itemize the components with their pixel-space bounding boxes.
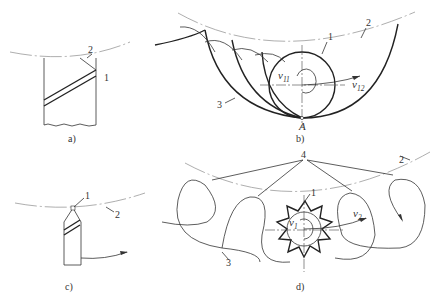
label-4: 4 bbox=[301, 149, 306, 160]
workpiece-surface-arc bbox=[15, 193, 145, 207]
motion-arrow bbox=[81, 252, 127, 258]
caption-c: c) bbox=[65, 281, 73, 293]
label-1: 1 bbox=[85, 190, 90, 201]
label-v1: v1 bbox=[289, 216, 298, 231]
tool-body bbox=[64, 208, 81, 265]
caption-d: d) bbox=[296, 281, 304, 293]
label-point-a: A bbox=[298, 120, 306, 132]
cutting-diagram: 2 1 a) 1 2 3 v11 v12 A b) bbox=[0, 0, 435, 299]
label-v2: v2 bbox=[353, 207, 362, 222]
trochoid-loop-2 bbox=[222, 197, 290, 262]
loop-arrowhead bbox=[398, 214, 403, 222]
trochoid-right bbox=[302, 24, 398, 118]
cutting-edge-line-2 bbox=[44, 76, 96, 106]
edge-line-1 bbox=[64, 220, 80, 230]
panel-b: 1 2 3 v11 v12 A b) bbox=[155, 12, 415, 145]
leader-line-1 bbox=[80, 58, 96, 70]
leader-2 bbox=[361, 28, 366, 38]
label-2: 2 bbox=[88, 44, 93, 55]
panel-c: 1 2 c) bbox=[15, 190, 145, 293]
leader-2 bbox=[106, 207, 114, 212]
caption-b: b) bbox=[296, 133, 304, 145]
label-3: 3 bbox=[226, 257, 231, 268]
workpiece-surface-arc bbox=[178, 12, 415, 41]
label-1: 1 bbox=[328, 31, 333, 42]
label-v12: v12 bbox=[352, 78, 365, 93]
rotation-arrow bbox=[297, 69, 316, 93]
leader-1 bbox=[322, 42, 327, 54]
cutting-edge-line-1 bbox=[44, 70, 96, 100]
label-2: 2 bbox=[115, 209, 120, 220]
leader-1 bbox=[305, 194, 310, 201]
motion-arrowhead bbox=[120, 251, 128, 255]
edge-line-2 bbox=[64, 225, 80, 235]
label-1: 1 bbox=[104, 72, 109, 83]
break-line bbox=[44, 124, 96, 126]
leader-4a bbox=[212, 160, 303, 180]
label-3: 3 bbox=[217, 99, 222, 110]
tail-curve bbox=[155, 30, 205, 45]
panel-a: 2 1 a) bbox=[10, 42, 130, 145]
workpiece-surface-arc bbox=[10, 42, 130, 57]
workpiece-surface-arc bbox=[185, 152, 430, 191]
leader-1 bbox=[74, 198, 84, 207]
label-2: 2 bbox=[399, 154, 404, 165]
leader-3 bbox=[225, 98, 235, 103]
caption-a: a) bbox=[68, 133, 76, 145]
leader-4b bbox=[258, 160, 303, 196]
panel-d: 4 1 2 3 v1 v2 d) bbox=[162, 149, 430, 293]
feed-arrow-line bbox=[304, 218, 366, 229]
label-v11: v11 bbox=[278, 69, 290, 84]
leader-4d bbox=[307, 160, 393, 175]
label-2: 2 bbox=[366, 17, 371, 28]
label-1: 1 bbox=[311, 187, 316, 198]
trochoid-loop-3 bbox=[335, 179, 425, 259]
trochoid-loop-1 bbox=[162, 180, 260, 262]
